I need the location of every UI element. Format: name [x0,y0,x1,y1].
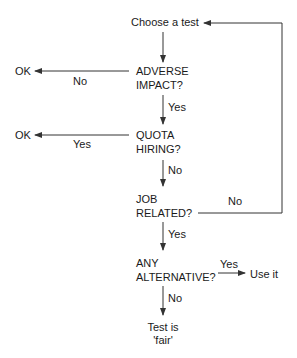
node-choose-test: Choose a test [131,16,199,29]
node-job-line1: JOB [136,193,157,206]
node-job-line2: RELATED? [136,207,192,220]
node-alt-line2: ALTERNATIVE? [136,271,216,284]
node-alt-line1: ANY [136,257,159,270]
node-quota-line2: HIRING? [136,143,181,156]
label-quota-yes: Yes [73,138,91,151]
label-job-no: No [228,195,242,208]
flowchart-canvas: Choose a test ADVERSE IMPACT? OK No Yes … [0,0,297,358]
node-fair-line1: Test is [133,321,193,334]
label-quota-no: No [168,164,182,177]
label-adverse-no: No [73,75,87,88]
label-alt-no: No [168,292,182,305]
node-ok-1: OK [15,65,31,78]
node-ok-2: OK [15,129,31,142]
node-quota-line1: QUOTA [136,129,174,142]
flowchart-connectors [0,0,297,358]
node-adverse-line2: IMPACT? [136,79,183,92]
label-alt-yes: Yes [220,258,238,271]
label-adverse-yes: Yes [168,101,186,114]
node-use-it: Use it [250,268,278,281]
label-job-yes: Yes [168,228,186,241]
loop-job-no [198,23,282,213]
node-adverse-line1: ADVERSE [136,65,189,78]
node-fair-line2: 'fair' [133,334,193,347]
